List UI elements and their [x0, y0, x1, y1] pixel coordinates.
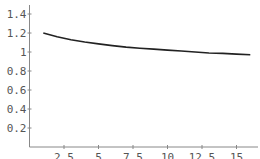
y-tick-label: 0.2: [7, 122, 27, 135]
y-tick-label: 0.6: [7, 84, 27, 97]
y-tick-label: 0.4: [7, 103, 27, 116]
x-tick-label: 12.5: [189, 151, 216, 159]
y-tick-label: 1.4: [7, 8, 27, 21]
x-tick-label: 10: [161, 151, 174, 159]
x-tick-label: 2.5: [54, 151, 74, 159]
x-tick-label: 15: [230, 151, 243, 159]
x-tick-label: 7.5: [123, 151, 143, 159]
y-tick-label: 1: [20, 46, 27, 59]
y-ticks: 0.20.40.60.811.21.4: [7, 8, 32, 135]
y-tick-label: 1.2: [7, 27, 27, 40]
line-chart: 0.20.40.60.811.21.4 2.557.51012.515: [0, 0, 260, 159]
y-tick-label: 0.8: [7, 65, 27, 78]
x-tick-label: 5: [95, 151, 102, 159]
data-line: [43, 33, 250, 55]
